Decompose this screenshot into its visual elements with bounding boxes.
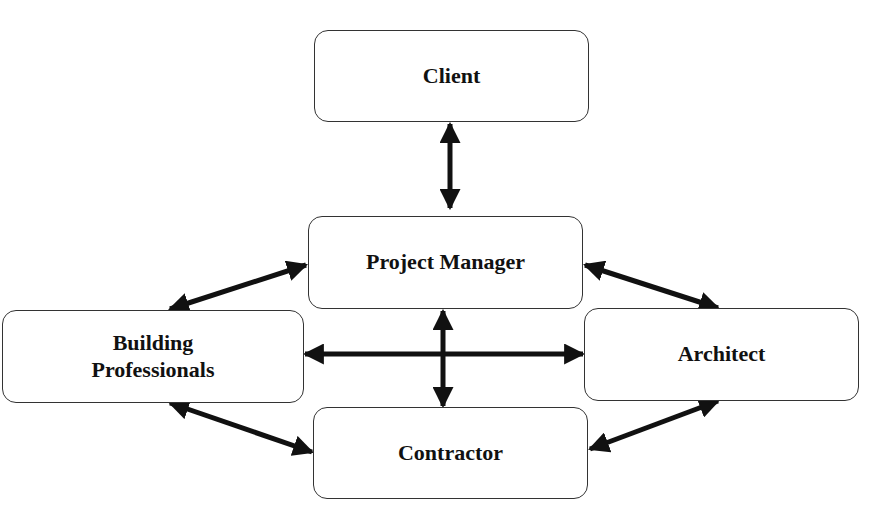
node-client-label: Client [423, 63, 480, 89]
node-project-manager: Project Manager [308, 216, 583, 309]
node-building-professionals-label-line1: Building [113, 330, 194, 356]
node-contractor-label: Contractor [398, 440, 503, 466]
node-contractor: Contractor [313, 407, 588, 499]
node-building-professionals: Building Professionals [2, 310, 304, 403]
arrow-architect-contractor [590, 401, 718, 449]
node-architect: Architect [584, 308, 859, 401]
node-client: Client [314, 30, 589, 122]
node-architect-label: Architect [678, 341, 766, 367]
arrow-pm-building [170, 265, 306, 309]
node-project-manager-label: Project Manager [366, 249, 525, 275]
arrow-building-contractor [170, 403, 312, 452]
arrow-pm-architect [585, 265, 718, 308]
node-building-professionals-label-line2: Professionals [91, 357, 214, 383]
